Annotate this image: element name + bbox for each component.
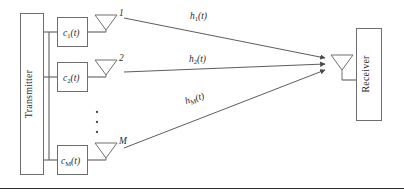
channel-arg-2: (t) [197, 54, 206, 65]
filter-label-1: c1(t) [63, 28, 79, 39]
filter-arg-m: (t) [71, 156, 80, 167]
antenna-dish-1 [95, 15, 117, 30]
channel-paths [124, 18, 325, 148]
branch-m: cM(t) M [58, 136, 129, 175]
antenna-icon-m [95, 143, 117, 160]
channel-arg-m: (t) [194, 91, 206, 104]
transmitter-label: Transmitter [23, 69, 34, 118]
antenna-index-2: 2 [119, 53, 124, 63]
vertical-ellipsis [96, 111, 98, 133]
antenna-dish-m [95, 143, 117, 158]
receiver-antenna [331, 55, 356, 80]
diagram-svg: Transmitter c1(t) 1 c [0, 0, 404, 194]
antenna-index-m: M [118, 136, 128, 146]
ellipsis-dot-1 [96, 111, 98, 113]
antenna-icon-2 [95, 60, 117, 77]
branch-1: c1(t) 1 [58, 8, 124, 47]
receiver-antenna-dish [331, 55, 353, 70]
ellipsis-dot-2 [96, 121, 98, 123]
transmitter-block: Transmitter [21, 14, 44, 175]
channel-arg-1: (t) [198, 11, 207, 22]
channel-line-2 [124, 64, 325, 72]
channel-label-m: hM(t) [184, 91, 206, 107]
antenna-dish-2 [95, 60, 117, 75]
receiver-label: Receiver [360, 55, 371, 93]
antenna-index-1: 1 [119, 8, 124, 18]
antenna-icon-1 [95, 15, 117, 32]
figure-canvas: Transmitter c1(t) 1 c [0, 0, 404, 194]
receiver-block: Receiver [357, 29, 382, 121]
filter-arg-1: (t) [71, 28, 80, 39]
branch-2: c2(t) 2 [58, 53, 125, 92]
channel-line-m [124, 70, 325, 148]
filter-arg-2: (t) [71, 73, 80, 84]
channel-line-1 [124, 18, 325, 58]
filter-label-2: c2(t) [63, 73, 79, 84]
transmitter-bus [44, 32, 58, 160]
channel-label-1: h1(t) [190, 11, 207, 22]
channel-labels: h1(t) h2(t) hM(t) [184, 11, 207, 107]
filter-label-m: cM(t) [61, 156, 80, 167]
channel-label-2: h2(t) [189, 54, 206, 65]
ellipsis-dot-3 [96, 131, 98, 133]
